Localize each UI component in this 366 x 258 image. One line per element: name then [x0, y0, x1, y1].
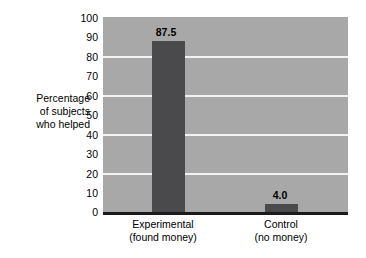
x-tick-control-line-1: Control	[225, 218, 337, 231]
x-axis-line	[103, 212, 348, 215]
y-tick-50: 50	[74, 110, 98, 120]
gridline-80	[103, 173, 348, 175]
y-tick-80: 80	[74, 52, 98, 62]
x-tick-experimental-line-1: Experimental	[107, 218, 219, 231]
y-tick-0: 0	[74, 207, 98, 217]
y-tick-60: 60	[74, 91, 98, 101]
y-tick-40: 40	[74, 130, 98, 140]
x-tick-control: Control (no money)	[225, 218, 337, 244]
x-tick-experimental-line-2: (found money)	[107, 231, 219, 244]
y-axis-tick-labels: 100 90 80 70 60 50 40 30 20 10 0	[72, 0, 98, 258]
bar-experimental[interactable]	[152, 41, 185, 212]
y-tick-30: 30	[74, 149, 98, 159]
gridline-40	[103, 95, 348, 97]
bar-value-control: 4.0	[251, 190, 309, 201]
plot-area	[103, 17, 348, 212]
bar-control[interactable]	[265, 204, 298, 212]
y-tick-100: 100	[74, 13, 98, 23]
gridline-60	[103, 134, 348, 136]
gridline-20	[103, 56, 348, 58]
x-tick-experimental: Experimental (found money)	[107, 218, 219, 244]
y-tick-20: 20	[74, 169, 98, 179]
y-tick-90: 90	[74, 32, 98, 42]
bar-chart-figure: Percentage of subjects who helped 100 90…	[0, 0, 366, 258]
bar-value-experimental: 87.5	[136, 27, 196, 38]
y-tick-70: 70	[74, 71, 98, 81]
y-tick-10: 10	[74, 188, 98, 198]
x-tick-control-line-2: (no money)	[225, 231, 337, 244]
